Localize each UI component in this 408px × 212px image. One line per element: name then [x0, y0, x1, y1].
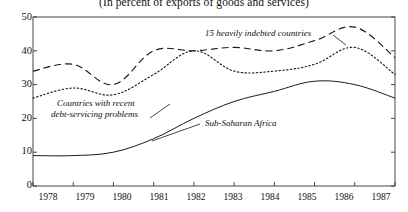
chart-figure: (In percent of exports of goods and serv…: [0, 0, 408, 212]
series-line-solid: [33, 81, 395, 156]
leader-line-debt-servicing: [150, 104, 170, 118]
leader-line-sub-saharan: [152, 124, 200, 141]
chart-plot-area: [0, 0, 408, 212]
leader-line-heavily-indebted: [333, 35, 346, 45]
series-line-dotted: [33, 47, 395, 98]
series-line-dashed: [33, 27, 395, 85]
